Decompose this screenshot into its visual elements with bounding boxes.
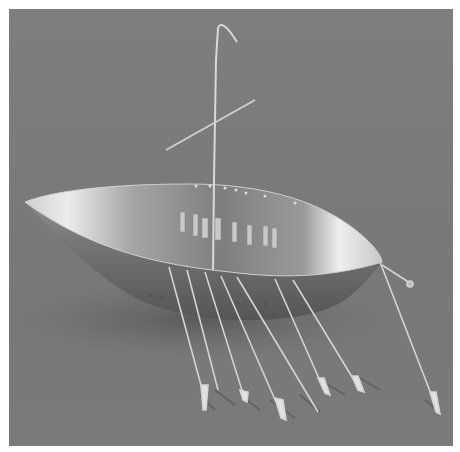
boat-model-illustration [9, 9, 453, 446]
oar-blade [201, 385, 208, 410]
photograph: Photograph of a golden boat model with s… [9, 9, 453, 446]
